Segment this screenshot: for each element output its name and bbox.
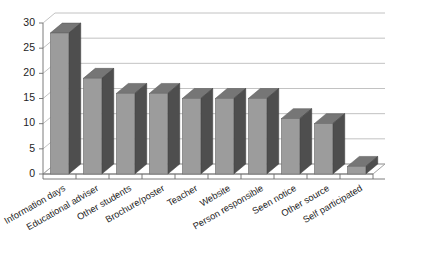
bar-chart: 051015202530 Information daysEducational… [0, 0, 428, 270]
x-category-label-3: Brochure/poster [104, 183, 166, 225]
y-tick-label-25: 25 [23, 41, 35, 53]
y-axis-tick-labels: 051015202530 [23, 16, 35, 179]
bar-6 [248, 89, 278, 175]
bar-front-face-4 [182, 99, 200, 175]
bars-group [50, 23, 377, 174]
bar-8 [314, 114, 344, 174]
y-tick-label-10: 10 [23, 116, 35, 128]
bar-side-face-6 [267, 89, 279, 175]
bar-side-face-2 [135, 83, 147, 174]
bar-front-face-8 [314, 124, 332, 174]
bar-front-face-3 [149, 93, 167, 174]
bar-5 [215, 89, 245, 175]
bar-3 [149, 83, 179, 174]
bar-side-face-4 [201, 89, 213, 175]
bar-7 [281, 109, 311, 174]
y-tick-label-30: 30 [23, 16, 35, 28]
y-tick-label-20: 20 [23, 66, 35, 78]
x-axis-category-labels: Information daysEducational adviserOther… [3, 183, 365, 232]
y-tick-label-5: 5 [29, 142, 35, 154]
bar-front-face-5 [215, 99, 233, 175]
bar-side-face-5 [234, 89, 246, 175]
y-tick-label-15: 15 [23, 91, 35, 103]
bar-side-face-3 [168, 83, 180, 174]
y-tick-label-0: 0 [29, 167, 35, 179]
bar-front-face-2 [116, 93, 134, 174]
x-category-label-9: Self participated [301, 183, 364, 225]
x-category-label-4: Teacher [165, 183, 199, 208]
bar-side-face-7 [300, 109, 312, 174]
bar-2 [116, 83, 146, 174]
bar-front-face-6 [248, 99, 266, 175]
bar-front-face-7 [281, 119, 299, 174]
bar-side-face-0 [69, 23, 81, 174]
gridline-depth-30 [43, 13, 55, 23]
bar-4 [182, 89, 212, 175]
bar-side-face-8 [333, 114, 345, 174]
bar-front-face-9 [347, 166, 365, 174]
bar-side-face-1 [102, 68, 114, 174]
bar-0 [50, 23, 80, 174]
bar-front-face-0 [50, 33, 68, 174]
bar-1 [83, 68, 113, 174]
bar-front-face-1 [83, 78, 101, 174]
chart-canvas: 051015202530 Information daysEducational… [0, 0, 428, 270]
